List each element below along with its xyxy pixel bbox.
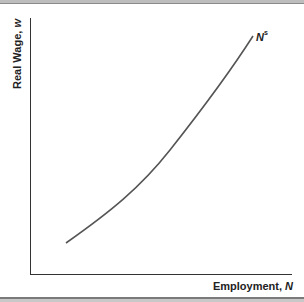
plot-area (0, 0, 304, 302)
curve-label-ns: Ns (256, 30, 268, 43)
x-axis-label: Employment, N (213, 280, 293, 292)
labor-supply-curve (66, 36, 253, 243)
y-axis-label: Real Wage, w (11, 19, 23, 89)
